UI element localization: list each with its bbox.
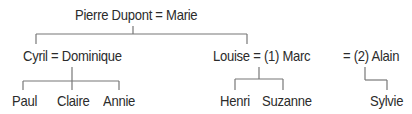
child-claire: Claire [57, 93, 89, 109]
couple-cyril-dominique: Cyril = Dominique [23, 48, 122, 64]
child-suzanne: Suzanne [262, 93, 312, 109]
child-henri: Henri [220, 93, 250, 109]
child-sylvie: Sylvie [370, 93, 403, 109]
couple-pierre-marie: Pierre Dupont = Marie [75, 7, 197, 23]
family-tree-diagram: Pierre Dupont = Marie Cyril = Dominique … [0, 0, 412, 114]
child-paul: Paul [12, 93, 37, 109]
couple-louise-marc: Louise = (1) Marc [213, 48, 310, 64]
child-annie: Annie [103, 93, 135, 109]
couple-louise-alain: = (2) Alain [343, 48, 399, 64]
